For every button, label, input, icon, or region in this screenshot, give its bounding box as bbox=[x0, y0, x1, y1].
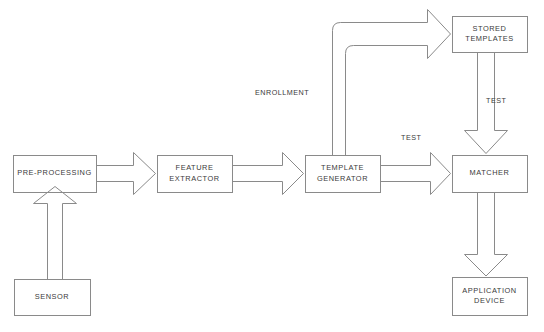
node-box-template bbox=[306, 156, 381, 193]
diagram-canvas: SENSOR PRE-PROCESSING FEATURE EXTRACTOR … bbox=[0, 0, 544, 332]
arrow-template-to-matcher bbox=[381, 153, 451, 195]
node-box-feature bbox=[158, 156, 233, 193]
arrow-template-to-stored bbox=[333, 10, 451, 156]
arrow-stored-to-matcher bbox=[465, 53, 508, 154]
arrow-preprocessing-to-feature bbox=[97, 153, 156, 195]
diagram-vector-layer bbox=[0, 0, 544, 332]
arrow-sensor-to-preprocessing bbox=[34, 187, 77, 280]
edge-arrows bbox=[34, 10, 508, 280]
node-box-matcher bbox=[453, 156, 528, 193]
node-box-stored bbox=[453, 17, 528, 53]
node-box-sensor bbox=[15, 280, 91, 316]
arrow-feature-to-template bbox=[233, 153, 304, 195]
arrow-matcher-to-application bbox=[465, 193, 508, 277]
node-box-application bbox=[453, 278, 528, 316]
